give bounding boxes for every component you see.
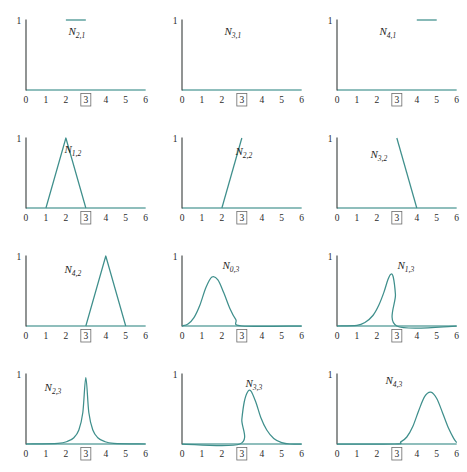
x-tick-label-highlighted: 3 — [395, 95, 400, 105]
x-tick-label: 0 — [179, 449, 184, 459]
x-tick-label: 1 — [44, 213, 49, 223]
plot-panel-n-0-3: 10123456N0,3 — [156, 236, 312, 354]
x-tick-label: 2 — [64, 95, 69, 105]
x-tick-label: 0 — [335, 213, 340, 223]
plot-panel-n-1-2: 10123456N1,2 — [0, 118, 156, 236]
x-tick-label: 1 — [355, 95, 360, 105]
x-tick-label-highlighted: 3 — [83, 213, 88, 223]
x-tick-label: 4 — [103, 95, 108, 105]
x-tick-label: 4 — [415, 331, 420, 341]
y-tick-label: 1 — [17, 134, 22, 144]
x-tick-label: 5 — [279, 449, 284, 459]
x-tick-label-highlighted: 3 — [239, 449, 244, 459]
x-tick-label: 6 — [299, 95, 304, 105]
x-tick-label: 2 — [375, 331, 380, 341]
y-tick-label: 1 — [172, 370, 177, 380]
y-tick-label: 1 — [328, 16, 333, 26]
x-tick-label: 1 — [355, 331, 360, 341]
x-tick-label: 4 — [103, 213, 108, 223]
x-tick-label-highlighted: 3 — [395, 449, 400, 459]
x-tick-label: 1 — [44, 95, 49, 105]
x-tick-label: 2 — [375, 95, 380, 105]
x-tick-label: 1 — [199, 213, 204, 223]
basis-curve — [86, 256, 126, 326]
x-tick-label: 2 — [219, 95, 224, 105]
x-tick-label: 6 — [455, 95, 460, 105]
x-tick-label: 0 — [179, 331, 184, 341]
curve-label: N4,2 — [64, 263, 82, 278]
y-tick-label: 1 — [17, 370, 22, 380]
curve-label: N1,3 — [397, 259, 415, 274]
x-tick-label-highlighted: 3 — [239, 331, 244, 341]
x-tick-label-highlighted: 3 — [83, 95, 88, 105]
x-tick-label-highlighted: 3 — [83, 331, 88, 341]
x-tick-label: 2 — [64, 213, 69, 223]
curve-label: N0,3 — [221, 259, 239, 274]
x-tick-label: 6 — [143, 213, 148, 223]
x-tick-label: 4 — [415, 95, 420, 105]
x-tick-label: 4 — [259, 449, 264, 459]
plot-panel-n-4-2: 10123456N4,2 — [0, 236, 156, 354]
x-tick-label: 0 — [335, 449, 340, 459]
x-tick-label: 6 — [455, 449, 460, 459]
panel-grid: 10123456N2,110123456N3,110123456N4,11012… — [0, 0, 467, 472]
x-tick-label: 4 — [103, 331, 108, 341]
basis-curve — [337, 274, 457, 328]
x-tick-label: 2 — [219, 213, 224, 223]
curve-label: N2,2 — [234, 145, 252, 160]
x-tick-label: 0 — [335, 95, 340, 105]
x-tick-label: 6 — [455, 331, 460, 341]
y-tick-label: 1 — [328, 134, 333, 144]
y-tick-label: 1 — [328, 370, 333, 380]
x-tick-label: 4 — [259, 331, 264, 341]
x-tick-label: 1 — [44, 331, 49, 341]
x-tick-label: 6 — [143, 449, 148, 459]
x-tick-label: 5 — [435, 331, 440, 341]
x-tick-label: 1 — [199, 449, 204, 459]
x-tick-label: 2 — [64, 331, 69, 341]
plot-panel-n-4-3: 10123456N4,3 — [311, 354, 467, 472]
y-tick-label: 1 — [328, 252, 333, 262]
basis-curve — [182, 277, 302, 327]
x-tick-label: 5 — [123, 95, 128, 105]
x-tick-label-highlighted: 3 — [395, 331, 400, 341]
x-tick-label: 0 — [335, 331, 340, 341]
y-tick-label: 1 — [172, 134, 177, 144]
x-tick-label: 4 — [103, 449, 108, 459]
x-tick-label: 6 — [299, 331, 304, 341]
x-tick-label: 0 — [24, 213, 29, 223]
x-tick-label: 6 — [143, 331, 148, 341]
x-tick-label: 5 — [123, 213, 128, 223]
plot-panel-n-4-1: 10123456N4,1 — [311, 0, 467, 118]
x-tick-label: 2 — [219, 331, 224, 341]
y-tick-label: 1 — [17, 16, 22, 26]
curve-label: N2,3 — [44, 381, 62, 396]
x-tick-label: 1 — [355, 449, 360, 459]
x-tick-label: 1 — [355, 213, 360, 223]
x-tick-label: 5 — [435, 449, 440, 459]
x-tick-label: 4 — [415, 213, 420, 223]
x-tick-label: 2 — [375, 449, 380, 459]
basis-curve — [182, 390, 302, 446]
basis-curve — [397, 138, 417, 208]
x-tick-label: 2 — [375, 213, 380, 223]
bspline-basis-figure: 10123456N2,110123456N3,110123456N4,11012… — [0, 0, 467, 472]
x-tick-label: 2 — [219, 449, 224, 459]
curve-label: N2,1 — [68, 25, 86, 40]
plot-panel-n-2-2: 10123456N2,2 — [156, 118, 312, 236]
x-tick-label: 2 — [64, 449, 69, 459]
x-tick-label-highlighted: 3 — [83, 449, 88, 459]
plot-panel-n-3-1: 10123456N3,1 — [156, 0, 312, 118]
x-tick-label: 1 — [199, 331, 204, 341]
curve-label: N4,3 — [385, 375, 403, 390]
curve-label: N3,3 — [244, 377, 262, 392]
x-tick-label: 4 — [415, 449, 420, 459]
x-tick-label: 5 — [435, 213, 440, 223]
basis-curve — [337, 392, 457, 444]
x-tick-label: 4 — [259, 95, 264, 105]
x-tick-label: 5 — [279, 95, 284, 105]
x-tick-label: 1 — [199, 95, 204, 105]
x-tick-label: 5 — [279, 213, 284, 223]
x-tick-label: 0 — [179, 213, 184, 223]
x-tick-label: 0 — [24, 331, 29, 341]
